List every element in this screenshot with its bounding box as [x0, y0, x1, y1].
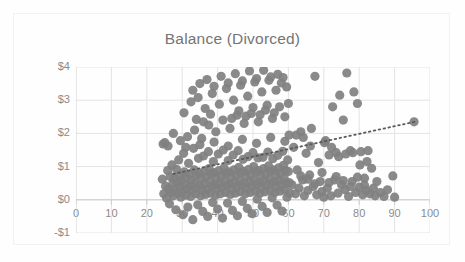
plot-area	[76, 67, 430, 233]
scatter-plot-svg	[76, 67, 430, 233]
chart-container: Balance (Divorced) Thousands -$1$0$1$2$3…	[0, 0, 465, 262]
